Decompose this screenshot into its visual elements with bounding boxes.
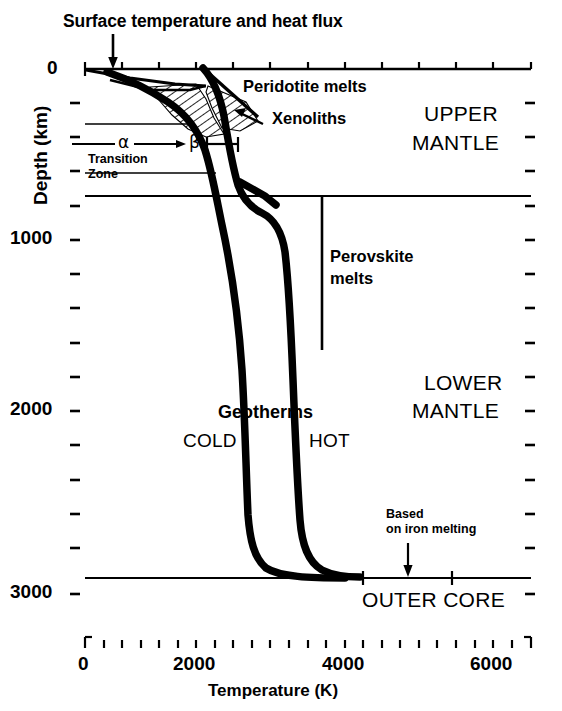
y-axis-label: Depth (km) xyxy=(30,106,52,205)
y-axis-ticks-right xyxy=(525,103,535,594)
x-axis-label: Temperature (K) xyxy=(208,682,338,700)
y-axis-ticks xyxy=(70,69,85,594)
outer-core-label: OUTER CORE xyxy=(362,589,505,611)
top-axis xyxy=(85,62,531,69)
upper-mantle-label-line1: UPPER xyxy=(424,103,498,125)
geotherms-label: Geotherms xyxy=(218,403,313,422)
y-tick-label-2000: 2000 xyxy=(10,399,52,419)
xenoliths-label: Xenoliths xyxy=(272,110,346,127)
y-tick-label-0: 0 xyxy=(47,58,58,78)
transition-zone-label-line2: Zone xyxy=(88,167,118,181)
beta-phase-label: β xyxy=(189,134,200,152)
alpha-phase-label: α xyxy=(118,134,129,152)
x-tick-label-2000: 2000 xyxy=(173,654,215,674)
transition-zone-label-line1: Transition xyxy=(88,152,148,166)
alpha-beta-transition-marker xyxy=(72,137,238,152)
cold-geotherm-label: COLD xyxy=(183,431,237,451)
hot-geotherm-label: HOT xyxy=(309,431,350,451)
surface-heat-flux-arrow xyxy=(108,34,118,69)
x-tick-label-6000: 6000 xyxy=(470,654,512,674)
geotherm-figure: Surface temperature and heat flux Depth … xyxy=(0,0,562,711)
y-tick-label-1000: 1000 xyxy=(10,228,52,248)
perovskite-melts-label-line1: Perovskite xyxy=(330,248,413,265)
lower-mantle-label-line1: LOWER xyxy=(424,372,503,394)
based-on-iron-melting-line2: on iron melting xyxy=(386,522,476,536)
x-tick-label-4000: 4000 xyxy=(322,654,364,674)
iron-melting-arrow xyxy=(403,543,412,577)
peridotite-melts-label: Peridotite melts xyxy=(243,78,367,95)
surface-heat-flux-title: Surface temperature and heat flux xyxy=(63,12,343,30)
upper-mantle-label-line2: MANTLE xyxy=(412,132,499,154)
y-tick-label-3000: 3000 xyxy=(10,582,52,602)
perovskite-melts-label-line2: melts xyxy=(330,270,373,287)
based-on-iron-melting-line1: Based xyxy=(386,507,424,521)
bottom-ruler-axis xyxy=(85,637,531,648)
x-tick-label-0: 0 xyxy=(78,654,89,674)
lower-mantle-label-line2: MANTLE xyxy=(412,400,499,422)
